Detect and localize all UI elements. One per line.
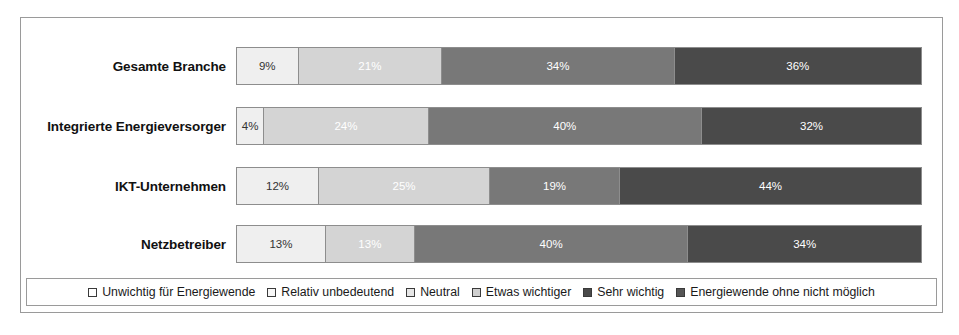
legend-item[interactable]: Relativ unbedeutend xyxy=(267,285,394,299)
legend-label: Energiewende ohne nicht möglich xyxy=(690,285,875,299)
legend-swatch-icon xyxy=(88,288,97,297)
legend-item[interactable]: Energiewende ohne nicht möglich xyxy=(676,285,875,299)
legend-label: Sehr wichtig xyxy=(597,285,664,299)
legend-item[interactable]: Sehr wichtig xyxy=(583,285,664,299)
legend-swatch-icon xyxy=(406,288,415,297)
legend-item[interactable]: Neutral xyxy=(406,285,460,299)
category-label: Netzbetreiber xyxy=(21,237,236,252)
category-label: Integrierte Energieversorger xyxy=(21,119,236,134)
legend-swatch-icon xyxy=(267,288,276,297)
stacked-bar: 13% 13% 40% 34% xyxy=(236,225,922,263)
category-label: IKT-Unternehmen xyxy=(21,179,236,194)
bar-segment: 19% xyxy=(490,168,620,204)
bar-segment: 44% xyxy=(620,168,921,204)
legend-item[interactable]: Unwichtig für Energiewende xyxy=(88,285,255,299)
legend-label: Relativ unbedeutend xyxy=(281,285,394,299)
bar-row: IKT-Unternehmen 12% 25% 19% 44% xyxy=(21,156,942,216)
category-label: Gesamte Branche xyxy=(21,59,236,74)
bar-segment: 12% xyxy=(237,168,319,204)
legend-label: Neutral xyxy=(420,285,460,299)
bar-row: Netzbetreiber 13% 13% 40% 34% xyxy=(21,214,942,274)
bar-segment: 34% xyxy=(442,48,675,84)
legend-item[interactable]: Etwas wichtiger xyxy=(472,285,571,299)
bar-segment: 4% xyxy=(237,108,264,144)
bar-segment: 9% xyxy=(237,48,299,84)
stacked-bar: 4% 24% 40% 32% xyxy=(236,107,922,145)
chart-frame: Gesamte Branche 9% 21% 34% 36% Integrier… xyxy=(20,17,943,313)
legend-swatch-icon xyxy=(583,288,592,297)
bar-segment: 25% xyxy=(319,168,490,204)
bar-segment: 21% xyxy=(299,48,443,84)
bar-row: Integrierte Energieversorger 4% 24% 40% … xyxy=(21,96,942,156)
stacked-bar: 9% 21% 34% 36% xyxy=(236,47,922,85)
legend-label: Etwas wichtiger xyxy=(486,285,571,299)
legend-label: Unwichtig für Energiewende xyxy=(102,285,255,299)
bar-segment: 13% xyxy=(237,226,326,262)
bar-segment: 40% xyxy=(429,108,703,144)
bar-segment: 32% xyxy=(702,108,921,144)
chart-legend: Unwichtig für Energiewende Relativ unbed… xyxy=(26,278,937,306)
stacked-bar: 12% 25% 19% 44% xyxy=(236,167,922,205)
bar-segment: 36% xyxy=(675,48,921,84)
legend-swatch-icon xyxy=(676,288,685,297)
bar-segment: 24% xyxy=(264,108,428,144)
bar-segment: 34% xyxy=(688,226,921,262)
legend-swatch-icon xyxy=(472,288,481,297)
bar-segment: 13% xyxy=(326,226,415,262)
plot-area: Gesamte Branche 9% 21% 34% 36% Integrier… xyxy=(21,18,942,273)
bar-row: Gesamte Branche 9% 21% 34% 36% xyxy=(21,36,942,96)
bar-segment: 40% xyxy=(415,226,689,262)
